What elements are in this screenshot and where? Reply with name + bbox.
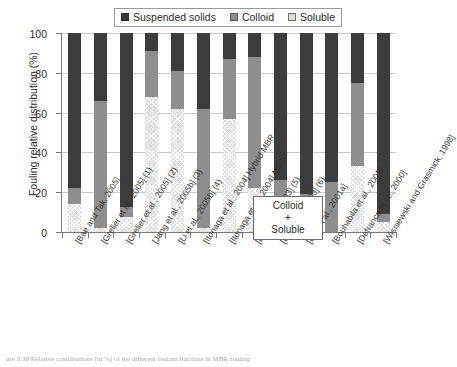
bar-segment-colloid [223,59,236,119]
square-swatch-icon [121,13,129,21]
bar-segment-suspended-solids [94,33,107,101]
bar-segment-colloid [68,188,81,204]
bar-segment-soluble [377,222,390,232]
bar-stack [145,33,158,232]
x-tick [216,232,217,238]
y-tick-label: 60 [35,108,47,120]
y-tick-label: 40 [35,147,47,159]
bar-segment-suspended-solids [223,33,236,59]
x-tick [113,232,114,238]
bar-segment-colloid [325,182,338,232]
bar-stack [223,33,236,232]
bar-stack [94,33,107,232]
bar-segment-suspended-solids [377,33,390,214]
bar-stack [68,33,81,232]
bar-stack [120,33,133,232]
x-tick [62,232,63,238]
bar-segment-suspended-solids [171,33,184,71]
annotation-line-1: Colloid [256,200,320,212]
x-tick [88,232,89,238]
legend-label-colloid: Colloid [242,11,274,23]
bar-segment-suspended-solids [300,33,313,194]
y-tick-label: 80 [35,68,47,80]
legend-item-soluble: Soluble [288,11,335,23]
bar-segment-soluble [351,166,364,232]
bar-segment-colloid [171,71,184,109]
bar-segment-colloid [248,57,261,188]
x-tick [190,232,191,238]
bar-stack [171,33,184,232]
square-swatch-icon [288,13,296,21]
bar-stack [325,33,338,232]
bar-stack [377,33,390,232]
annotation-line-2: + [256,212,320,224]
x-tick [165,232,166,238]
bar-segment-colloid [351,83,364,167]
bar-segment-soluble [145,97,158,232]
bar-stack [351,33,364,232]
legend-label-suspended-solids: Suspended solids [133,11,216,23]
bar-segment-soluble [94,228,107,232]
y-tick-label: 0 [41,227,47,239]
bar-segment-suspended-solids [325,33,338,182]
annotation-line-3: Soluble [256,224,320,236]
bar-segment-soluble [223,119,236,232]
bar-segment-soluble [120,217,133,232]
bar-segment-suspended-solids [197,33,210,109]
bar-segment-colloid [197,109,210,228]
bar-segment-suspended-solids [274,33,287,180]
legend-item-suspended-solids: Suspended solids [121,11,216,23]
y-tick-label: 20 [35,187,47,199]
legend-item-colloid: Colloid [230,11,274,23]
x-tick [345,232,346,238]
legend-label-soluble: Soluble [300,11,335,23]
bar-segment-soluble [171,109,184,232]
chart-legend: Suspended solids Colloid Soluble [114,8,342,27]
bar-segment-colloid [377,214,390,222]
x-tick [370,232,371,238]
bar-segment-suspended-solids [120,33,133,207]
y-tick-label: 100 [29,28,47,40]
bar-segment-suspended-solids [145,33,158,51]
colloid-plus-soluble-annotation: Colloid + Soluble [253,196,323,240]
bar-segment-suspended-solids [351,33,364,83]
bar-stack [197,33,210,232]
bar-segment-colloid [120,207,133,217]
bar-segment-soluble [68,204,81,232]
bar-series-group [62,33,396,232]
bar-segment-colloid [94,101,107,228]
plot-area: 020406080100 [61,33,396,233]
x-tick [242,232,243,238]
x-tick [139,232,140,238]
bar-segment-suspended-solids [68,33,81,188]
bar-segment-soluble [197,228,210,232]
square-swatch-icon [230,13,238,21]
figure-caption: ure 3.30 Relative contributions (in %) o… [6,355,404,364]
x-tick [396,232,397,238]
bar-segment-suspended-solids [248,33,261,57]
bar-segment-colloid [145,51,158,97]
